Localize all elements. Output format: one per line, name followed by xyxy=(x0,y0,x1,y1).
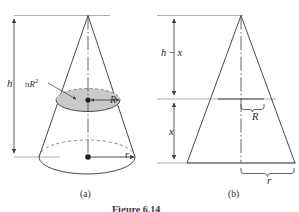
panel-b-drawing xyxy=(157,16,296,177)
panel-b-base-radius-label: r xyxy=(267,176,271,187)
figure-container: h πR2 R r (a) h − x x R r (b) Figure 6.1… xyxy=(0,0,299,212)
cone-left-slant xyxy=(39,16,88,158)
panel-a-caption: (a) xyxy=(80,190,91,200)
panel-a-drawing xyxy=(14,16,135,175)
panel-a-disk-radius-label: R xyxy=(110,95,116,105)
upper-segment-x: x xyxy=(177,47,182,58)
panel-b-upper-segment-label: h − x xyxy=(161,48,182,59)
panel-a-base-radius-label: r xyxy=(125,150,129,160)
panel-a-height-label: h xyxy=(7,78,13,89)
panel-b-lower-segment-label: x xyxy=(169,127,174,138)
panel-b-disk-radius-label: R xyxy=(252,112,258,123)
panel-a-area-label: πR2 xyxy=(25,78,38,89)
figure-caption: Figure 6.14 xyxy=(112,205,160,212)
base-center-dot xyxy=(85,154,91,160)
disk-center-dot xyxy=(85,97,90,102)
area-label-exponent: 2 xyxy=(35,77,38,84)
panel-b-caption: (b) xyxy=(228,190,239,200)
cone-right-slant xyxy=(88,16,135,158)
figure-drawing xyxy=(0,0,299,212)
